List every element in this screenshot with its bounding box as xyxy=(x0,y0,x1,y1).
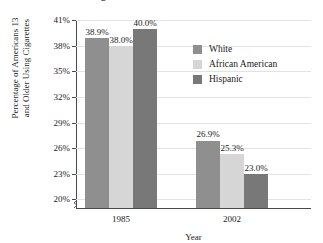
y-axis-tick-mark xyxy=(72,20,76,21)
y-axis-tick-mark xyxy=(72,199,76,200)
bar-value-label: 40.0% xyxy=(133,18,156,28)
y-axis-title-line1: Percentage of Americans 13 xyxy=(10,17,22,118)
y-axis-tick-label: 41% xyxy=(54,15,71,25)
chart-title: Cigarette Use in the United States xyxy=(0,0,323,1)
gridline xyxy=(76,20,311,21)
bar-value-label: 38.0% xyxy=(109,35,132,45)
bar-value-label: 38.9% xyxy=(85,27,108,37)
bar xyxy=(196,141,220,209)
legend-item: Hispanic xyxy=(193,72,277,86)
y-axis-title: Percentage of Americans 13 and Older Usi… xyxy=(8,0,34,142)
axis-break-icon xyxy=(73,200,80,209)
y-axis-tick-mark xyxy=(72,97,76,98)
legend-swatch xyxy=(193,60,202,69)
y-axis-tick-label: 35% xyxy=(54,66,71,76)
y-axis-tick-mark xyxy=(72,148,76,149)
y-axis-title-line2: and Older Using Cigarettes xyxy=(21,17,33,118)
bar xyxy=(220,154,244,208)
x-axis-category-label: 1985 xyxy=(112,214,130,224)
y-axis-tick-label: 23% xyxy=(54,169,71,179)
x-axis-category-label: 2002 xyxy=(223,214,241,224)
y-axis-tick-label: 29% xyxy=(54,118,71,128)
legend: WhiteAfrican AmericanHispanic xyxy=(193,42,277,87)
bar xyxy=(133,29,157,208)
legend-label: White xyxy=(209,44,232,54)
y-axis-tick-label: 20% xyxy=(54,194,71,204)
bar-chart-figure: Cigarette Use in the United States Perce… xyxy=(0,0,323,243)
y-axis-tick-label: 26% xyxy=(54,143,71,153)
x-axis-line xyxy=(76,208,311,209)
legend-label: Hispanic xyxy=(209,74,243,84)
y-axis-tick-label: 38% xyxy=(54,41,71,51)
bar-value-label: 26.9% xyxy=(196,129,219,139)
y-axis-tick-mark xyxy=(72,71,76,72)
y-axis-line xyxy=(76,20,77,208)
bar xyxy=(85,38,109,208)
y-axis-tick-mark xyxy=(72,46,76,47)
x-axis-title: Year xyxy=(76,232,311,242)
y-axis-tick-mark xyxy=(72,123,76,124)
y-axis-tick-label: 32% xyxy=(54,92,71,102)
legend-swatch xyxy=(193,45,202,54)
y-axis-tick-mark xyxy=(72,174,76,175)
legend-item: African American xyxy=(193,57,277,71)
legend-item: White xyxy=(193,42,277,56)
legend-swatch xyxy=(193,75,202,84)
legend-label: African American xyxy=(209,59,277,69)
bar-value-label: 25.3% xyxy=(220,143,243,153)
bar xyxy=(244,174,268,208)
bar xyxy=(109,46,133,208)
bar-value-label: 23.0% xyxy=(244,163,267,173)
